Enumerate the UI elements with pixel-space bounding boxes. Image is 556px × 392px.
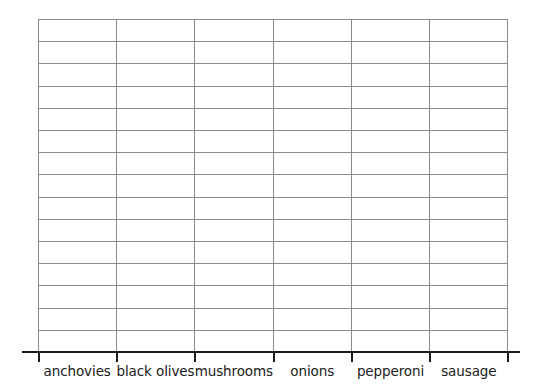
grid-cell: [195, 87, 273, 108]
grid-row: [39, 198, 507, 220]
grid-cell: [430, 64, 507, 85]
grid-cell: [117, 198, 195, 219]
grid-cell: [274, 109, 352, 130]
grid-cell: [352, 175, 430, 196]
grid-cell: [352, 331, 430, 352]
grid-cell: [195, 42, 273, 63]
grid-row: [39, 175, 507, 197]
bar-graph-template: anchovies black olives mushrooms onions …: [0, 0, 556, 392]
grid-cell: [195, 286, 273, 307]
grid-cell: [39, 42, 117, 63]
grid-cell: [430, 331, 507, 352]
grid-cell: [39, 131, 117, 152]
grid-cell: [195, 331, 273, 352]
grid-cell: [117, 286, 195, 307]
plot-grid: [38, 19, 508, 352]
grid-cell: [274, 331, 352, 352]
grid-cell: [274, 64, 352, 85]
grid-cell: [352, 220, 430, 241]
grid-row: [39, 242, 507, 264]
grid-cell: [430, 131, 507, 152]
grid-row: [39, 309, 507, 331]
grid-row: [39, 331, 507, 352]
grid-row: [39, 20, 507, 42]
grid-cell: [39, 64, 117, 85]
grid-cell: [117, 331, 195, 352]
grid-cell: [430, 264, 507, 285]
grid-cell: [39, 175, 117, 196]
grid-cell: [430, 42, 507, 63]
grid-cell: [430, 198, 507, 219]
grid-cell: [274, 20, 352, 41]
grid-cell: [39, 153, 117, 174]
grid-row: [39, 64, 507, 86]
grid-cell: [117, 309, 195, 330]
grid-cell: [117, 109, 195, 130]
grid-cell: [117, 20, 195, 41]
grid-cell: [352, 286, 430, 307]
grid-cell: [274, 87, 352, 108]
category-axis-line: [22, 351, 520, 353]
grid-cell: [274, 220, 352, 241]
grid-cell: [274, 198, 352, 219]
grid-cell: [352, 153, 430, 174]
grid-cell: [195, 220, 273, 241]
grid-cell: [39, 109, 117, 130]
grid-cell: [195, 198, 273, 219]
grid-row: [39, 87, 507, 109]
grid-cell: [117, 131, 195, 152]
axis-label-sausage: sausage: [430, 361, 508, 383]
grid-cell: [117, 175, 195, 196]
grid-cell: [430, 309, 507, 330]
grid-cell: [195, 109, 273, 130]
grid-cell: [39, 20, 117, 41]
grid-cell: [195, 64, 273, 85]
grid-cell: [274, 309, 352, 330]
grid-cell: [195, 20, 273, 41]
grid-cell: [430, 242, 507, 263]
grid-cell: [274, 175, 352, 196]
grid-cell: [430, 220, 507, 241]
grid-cell: [39, 87, 117, 108]
grid-cell: [195, 242, 273, 263]
grid-row: [39, 286, 507, 308]
grid-cell: [117, 153, 195, 174]
grid-cell: [430, 153, 507, 174]
grid-cell: [39, 220, 117, 241]
grid-cell: [274, 242, 352, 263]
grid-cell: [352, 131, 430, 152]
grid-cell: [430, 87, 507, 108]
grid-cell: [117, 64, 195, 85]
grid-cell: [195, 131, 273, 152]
grid-cell: [274, 286, 352, 307]
grid-cell: [352, 264, 430, 285]
category-axis-labels: anchovies black olives mushrooms onions …: [38, 361, 508, 383]
grid-row: [39, 131, 507, 153]
grid-cell: [352, 20, 430, 41]
grid-row: [39, 264, 507, 286]
grid-cell: [352, 198, 430, 219]
grid-cell: [352, 242, 430, 263]
grid-cell: [117, 87, 195, 108]
grid-cell: [274, 264, 352, 285]
grid-cell: [195, 175, 273, 196]
grid-row: [39, 153, 507, 175]
axis-label-black-olives: black olives: [116, 361, 194, 383]
grid-cell: [274, 153, 352, 174]
grid-cell: [39, 198, 117, 219]
grid-row: [39, 42, 507, 64]
axis-label-pepperoni: pepperoni: [351, 361, 429, 383]
axis-label-anchovies: anchovies: [38, 361, 116, 383]
grid-cell: [39, 331, 117, 352]
grid-cell: [39, 242, 117, 263]
grid-cell: [352, 42, 430, 63]
grid-cell: [274, 131, 352, 152]
grid-cell: [352, 87, 430, 108]
grid-cell: [430, 109, 507, 130]
grid-row: [39, 109, 507, 131]
grid-cell: [352, 309, 430, 330]
grid-cell: [195, 309, 273, 330]
grid-cell: [352, 109, 430, 130]
grid-cell: [117, 220, 195, 241]
grid-cell: [39, 309, 117, 330]
